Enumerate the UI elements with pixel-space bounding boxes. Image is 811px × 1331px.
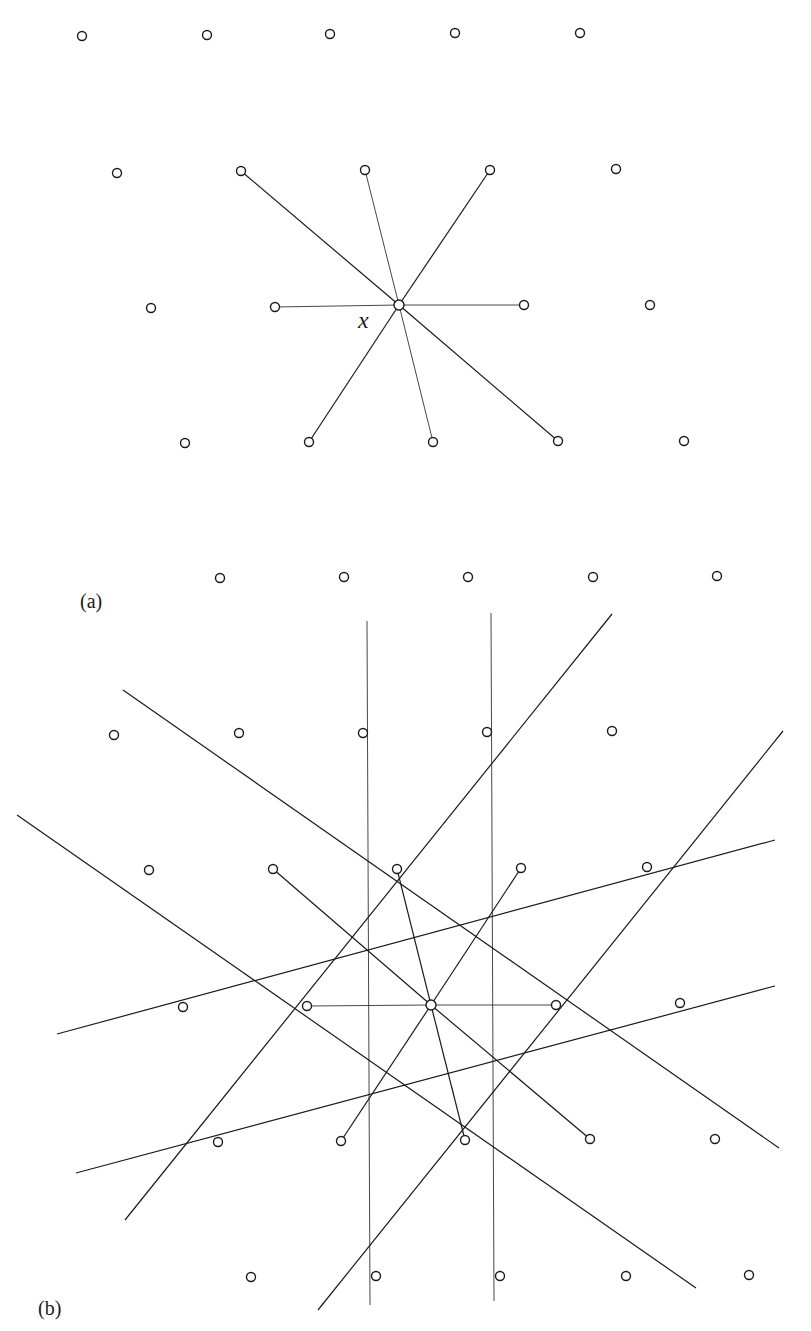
lattice-point [461,1136,470,1145]
lattice-point [271,303,280,312]
lattice-point [713,572,722,581]
panel-b-label: (b) [38,1297,61,1320]
lattice-point [181,439,190,448]
lattice-point [429,438,438,447]
lattice-point [147,304,156,313]
panel-a-label: (a) [80,590,102,613]
lattice-point [646,301,655,310]
lattice-point [622,1272,631,1281]
lattice-point [496,1272,505,1281]
lattice-point [113,169,122,178]
lattice-point [78,32,87,41]
lattice-point [179,1003,188,1012]
spoke-edge [241,171,399,305]
lattice-point [216,574,225,583]
lattice-point [745,1271,754,1280]
lattice-point [486,166,495,175]
spoke-edge [431,1005,465,1140]
center-lattice-point [426,1000,436,1010]
lattice-point [464,573,473,582]
lattice-point [676,999,685,1008]
lattice-diagram-canvas: x (a) (b) [0,0,811,1331]
lattice-point [680,437,689,446]
spoke-edge [399,305,433,442]
lattice-point [214,1138,223,1147]
lattice-point [326,30,335,39]
spoke-edge [273,869,431,1005]
lattice-point [235,729,244,738]
spoke-edge [399,170,490,305]
lattice-point [269,865,278,874]
lattice-point [612,165,621,174]
lattice-point [393,865,402,874]
line-diag-down [17,815,696,1288]
lattice-point [340,573,349,582]
lattice-point [552,1001,561,1010]
spoke-edge [399,305,558,441]
lattice-point [110,731,119,740]
lattice-point [451,29,460,38]
spoke-edge [365,170,399,305]
lattice-point [711,1135,720,1144]
panel-b-long-lines [17,613,783,1310]
lattice-point [483,728,492,737]
lattice-point [608,727,617,736]
lattice-point [361,166,370,175]
spoke-edge [431,868,521,1005]
lattice-point [520,301,529,310]
spoke-edge [341,1005,431,1141]
spoke-edge [397,869,431,1005]
spoke-edge [307,1005,431,1006]
spoke-edge [275,305,399,307]
panel-a-star-neighborhood: x (a) [78,29,689,614]
lattice-point [359,729,368,738]
line-vertical [367,621,370,1305]
center-point-label-x: x [357,307,369,333]
lattice-point [589,573,598,582]
center-lattice-point [394,300,404,310]
lattice-point [586,1135,595,1144]
panel-a-lattice-points [78,29,689,448]
lattice-point [305,438,314,447]
lattice-point [554,437,563,446]
panel-b-lattice-points [110,572,754,1282]
lattice-point [303,1002,312,1011]
lattice-point [643,863,652,872]
lattice-point [237,167,246,176]
line-vertical [491,613,494,1301]
spoke-edge [309,305,399,442]
lattice-point [372,1272,381,1281]
line-diag-up [125,614,612,1220]
lattice-point [247,1273,256,1282]
lattice-point [145,866,154,875]
lattice-point [576,29,585,38]
lattice-figure: x (a) (b) [0,0,811,1331]
line-diag-up [318,731,783,1310]
lattice-point [517,864,526,873]
lattice-point [337,1137,346,1146]
panel-b-line-arrangement: (b) [17,572,783,1321]
line-diag-down [123,690,779,1148]
lattice-point [203,31,212,40]
